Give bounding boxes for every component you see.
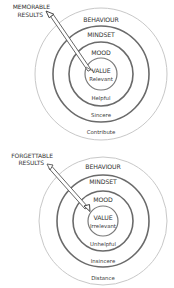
descriptor-mood: Helpful xyxy=(91,95,110,102)
descriptor-value: Relevant xyxy=(89,76,113,82)
title-line-1: FORGETTABLE xyxy=(11,152,53,159)
title-line-1: MEMORABLE xyxy=(13,3,51,10)
arrow-icon xyxy=(47,164,90,212)
memorable-results-diagram: MEMORABLE RESULTS BEHAVIOUR MINDSET MOOD… xyxy=(0,0,174,144)
title-line-2: RESULTS xyxy=(18,11,44,18)
descriptor-behaviour: Distance xyxy=(91,275,115,281)
label-mood: MOOD xyxy=(91,49,111,56)
descriptor-mindset: Sincere xyxy=(91,112,112,118)
label-value: VALUE xyxy=(93,214,112,221)
descriptor-value: Irrelevant xyxy=(90,223,116,229)
forgettable-results-diagram: FORGETTABLE RESULTS BEHAVIOUR MINDSET MO… xyxy=(0,144,174,288)
label-behaviour: BEHAVIOUR xyxy=(85,163,121,170)
label-mindset: MINDSET xyxy=(87,31,115,38)
label-value: VALUE xyxy=(91,67,110,74)
target-rings-graphic: MEMORABLE RESULTS BEHAVIOUR MINDSET MOOD… xyxy=(0,0,174,144)
label-mindset: MINDSET xyxy=(89,178,117,185)
descriptor-behaviour: Contribute xyxy=(87,129,116,135)
ring-behaviour xyxy=(35,8,167,140)
title-line-2: RESULTS xyxy=(19,159,45,166)
ring-value xyxy=(88,206,118,236)
descriptor-mood: Unhelpful xyxy=(90,241,116,248)
label-mood: MOOD xyxy=(93,196,113,203)
ring-value xyxy=(85,58,117,90)
target-rings-graphic: FORGETTABLE RESULTS BEHAVIOUR MINDSET MO… xyxy=(0,144,174,288)
label-behaviour: BEHAVIOUR xyxy=(83,16,119,23)
descriptor-mindset: Insincere xyxy=(91,258,116,264)
